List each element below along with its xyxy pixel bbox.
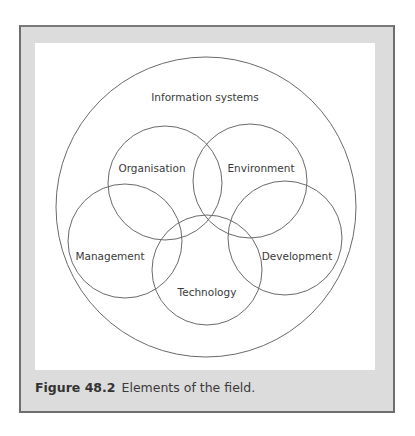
organisation-label: Organisation: [118, 162, 185, 174]
technology-label: Technology: [177, 286, 237, 298]
organisation-circle: [108, 126, 222, 240]
environment-label: Environment: [227, 162, 294, 174]
figure-caption: Figure 48.2Elements of the field.: [35, 380, 255, 395]
development-label: Development: [262, 250, 333, 262]
information-systems-label: Information systems: [151, 91, 259, 103]
technology-circle: [152, 215, 262, 325]
figure-number: Figure 48.2: [35, 380, 116, 395]
management-label: Management: [75, 250, 144, 262]
management-circle: [68, 184, 182, 298]
figure-caption-text: Elements of the field.: [122, 380, 256, 395]
venn-diagram: Information systems Organisation Environ…: [0, 0, 415, 436]
